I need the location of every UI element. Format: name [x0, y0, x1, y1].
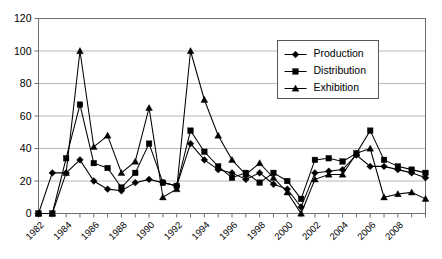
legend-label: Production	[314, 47, 364, 59]
chart-legend: ProductionDistributionExhibition	[278, 41, 379, 99]
x-axis-tick-label: 1984	[51, 219, 74, 242]
x-axis-tick-label: 1986	[78, 219, 101, 242]
x-axis-tick-label: 1992	[161, 219, 184, 242]
x-axis-tick-label: 1982	[23, 219, 46, 242]
x-axis-tick-label: 1990	[134, 219, 157, 242]
x-axis-labels-group: 1982198419861988199019921994199619982000…	[23, 219, 405, 242]
y-axis-tick-label: 40	[20, 142, 32, 154]
x-axis-tick-label: 1998	[244, 219, 267, 242]
y-axis-tick-label: 20	[20, 175, 32, 187]
x-axis-tick-label: 2000	[272, 219, 295, 242]
y-axis-tick-label: 0	[26, 207, 32, 219]
y-axis-tick-label: 60	[20, 110, 32, 122]
legend-label: Exhibition	[314, 81, 360, 93]
x-axis-tick-label: 2006	[355, 219, 378, 242]
line-chart: 020406080100120 198219841986198819901992…	[0, 0, 442, 259]
x-axis-tick-label: 2002	[300, 219, 323, 242]
x-axis-ticks-group	[39, 214, 426, 218]
x-axis-tick-label: 1988	[106, 219, 129, 242]
y-axis-ticks-group: 020406080100120	[14, 12, 39, 219]
y-axis-tick-label: 120	[14, 12, 32, 24]
x-axis-tick-label: 1994	[189, 219, 212, 242]
y-axis-tick-label: 80	[20, 77, 32, 89]
x-axis-tick-label: 2004	[327, 219, 350, 242]
chart-canvas: 020406080100120 198219841986198819901992…	[0, 0, 442, 259]
y-axis-tick-label: 100	[14, 45, 32, 57]
x-axis-tick-label: 2008	[383, 219, 406, 242]
x-axis-tick-label: 1996	[217, 219, 240, 242]
legend-label: Distribution	[314, 64, 367, 76]
